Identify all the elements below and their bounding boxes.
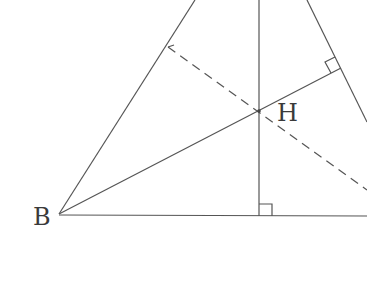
orthocenter-point (257, 109, 261, 113)
foot-tick-ab (168, 45, 174, 47)
orthocenter-diagram: B H (0, 0, 367, 302)
label-b: B (33, 203, 51, 231)
altitude-from-b (59, 68, 341, 214)
side-ac (307, 0, 367, 122)
altitude-from-c (168, 47, 367, 190)
side-bc (59, 215, 367, 216)
right-angle-mark-ac (325, 57, 335, 73)
label-h: H (277, 99, 298, 127)
right-angle-mark-bc (259, 204, 272, 216)
side-ab (59, 0, 195, 214)
